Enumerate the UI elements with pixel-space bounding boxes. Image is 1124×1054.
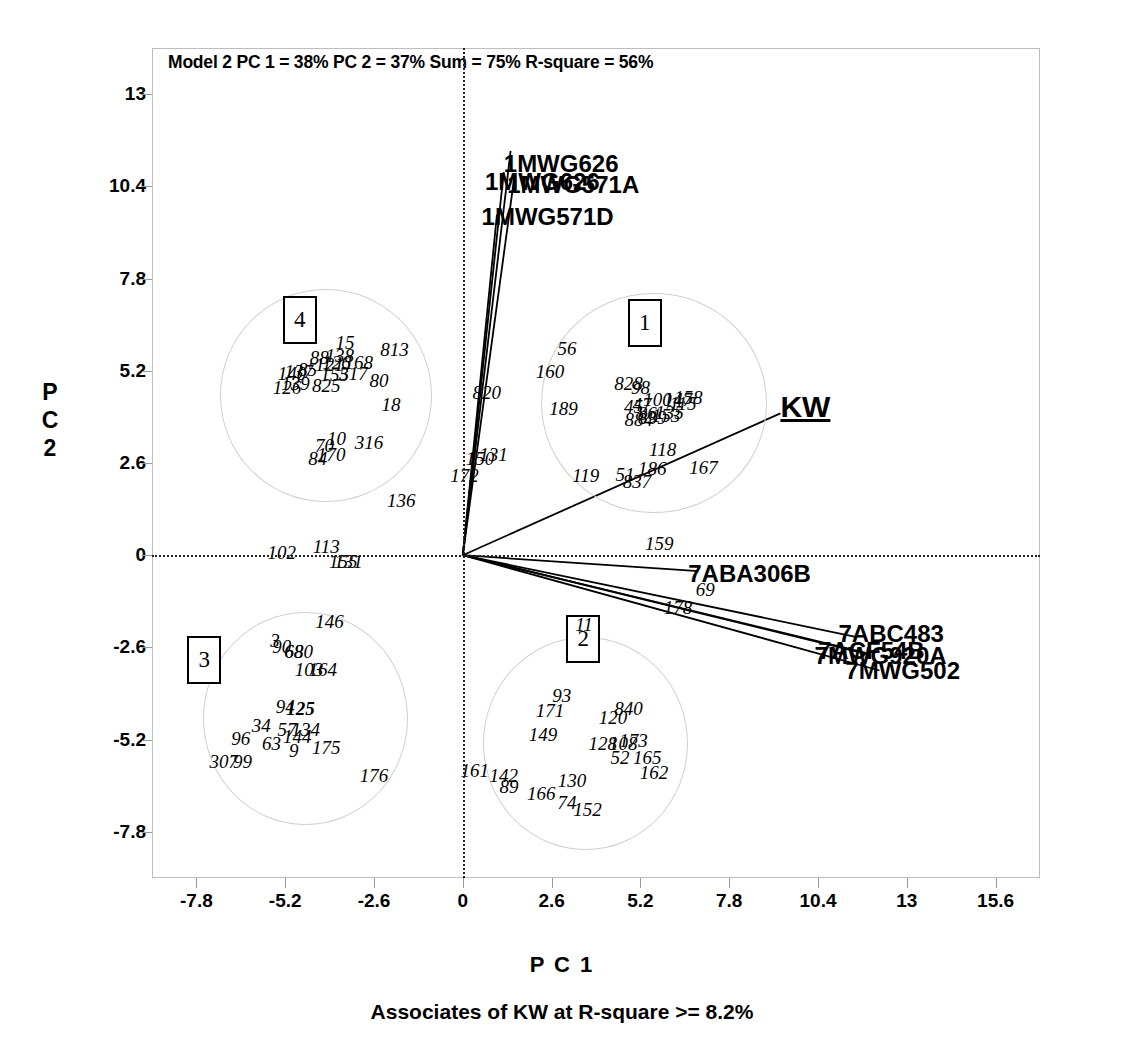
- y-axis-tick-mark: [142, 463, 152, 464]
- point-label: 131: [479, 445, 508, 464]
- point-label: 3: [270, 631, 280, 650]
- point-label: 130: [558, 771, 587, 790]
- point-label: 175: [312, 737, 341, 756]
- y-axis-tick-mark: [142, 279, 152, 280]
- point-label: 164: [309, 659, 338, 678]
- point-label: 118: [649, 439, 676, 458]
- x-axis-tick-mark: [640, 878, 641, 888]
- point-label: 125: [286, 698, 315, 717]
- x-axis-tick-label: 5.2: [627, 890, 653, 912]
- point-label: 167: [689, 457, 718, 476]
- x-axis-tick-mark: [729, 878, 730, 888]
- y-axis-tick-mark: [142, 186, 152, 187]
- y-axis-tick-label: 13: [0, 83, 146, 105]
- x-axis-tick-mark: [552, 878, 553, 888]
- point-label: 102: [268, 542, 297, 561]
- point-label: 74: [557, 792, 576, 811]
- point-label: 146: [315, 611, 344, 630]
- x-axis-tick-mark: [374, 878, 375, 888]
- y-axis-title-char: C: [30, 406, 70, 434]
- cluster-label-box-3: 3: [187, 636, 221, 684]
- point-label: 89: [499, 776, 518, 795]
- y-axis-tick-label: -7.8: [0, 821, 146, 843]
- x-axis-tick-label: 0: [458, 890, 469, 912]
- point-label: 189: [549, 399, 578, 418]
- zero-line-vertical: [463, 48, 465, 878]
- y-axis-tick-label: 7.8: [0, 268, 146, 290]
- vector-label-7MWG502: 7MWG502: [845, 659, 960, 683]
- x-axis-tick-mark: [285, 878, 286, 888]
- x-axis-tick-mark: [196, 878, 197, 888]
- point-label: 131: [334, 551, 363, 570]
- x-axis-tick-label: -5.2: [269, 890, 302, 912]
- y-axis-tick-mark: [142, 832, 152, 833]
- x-axis-tick-mark: [818, 878, 819, 888]
- y-axis-tick-mark: [142, 740, 152, 741]
- y-axis-title: PC2: [30, 378, 70, 462]
- vector-label-1MWG626b: 1MWG626: [485, 170, 600, 194]
- x-axis-tick-label: 2.6: [538, 890, 564, 912]
- y-axis-tick-mark: [142, 555, 152, 556]
- x-axis-tick-label: -2.6: [358, 890, 391, 912]
- y-axis-tick-mark: [142, 94, 152, 95]
- vector-label-1MWG571D: 1MWG571D: [482, 205, 614, 229]
- y-axis-title-char: 2: [30, 434, 70, 462]
- point-label: 171: [536, 700, 565, 719]
- x-axis-tick-label: 10.4: [800, 890, 837, 912]
- y-axis-tick-label: 2.6: [0, 452, 146, 474]
- point-label: 9: [289, 741, 299, 760]
- cluster-label-box-1: 1: [628, 299, 662, 347]
- point-label: 176: [360, 766, 389, 785]
- point-label: 80: [370, 370, 389, 389]
- point-label: 52: [610, 748, 629, 767]
- x-axis-tick-mark: [463, 878, 464, 888]
- point-label: 166: [527, 783, 556, 802]
- point-label: 136: [387, 491, 416, 510]
- vector-label-KW: KW: [780, 392, 830, 422]
- y-axis-tick-mark: [142, 371, 152, 372]
- point-label: 139: [281, 374, 310, 393]
- point-label: 820: [472, 383, 501, 402]
- x-axis-tick-label: 7.8: [716, 890, 742, 912]
- point-label: 99: [233, 751, 252, 770]
- point-label: 84: [308, 448, 327, 467]
- point-label: 813: [380, 340, 409, 359]
- point-label: 162: [640, 762, 669, 781]
- y-axis-tick-label: 0: [0, 544, 146, 566]
- y-axis-tick-label: 10.4: [0, 175, 146, 197]
- point-label: 316: [355, 432, 384, 451]
- point-label: 120: [599, 707, 628, 726]
- point-label: 63: [262, 734, 281, 753]
- y-axis-tick-label: 5.2: [0, 360, 146, 382]
- point-label: 837: [623, 471, 652, 490]
- y-axis-title-char: P: [30, 378, 70, 406]
- point-label: 96: [231, 728, 250, 747]
- point-label: 119: [572, 466, 599, 485]
- y-axis-tick-label: -2.6: [0, 636, 146, 658]
- point-label: 56: [557, 338, 576, 357]
- point-label: 160: [536, 361, 565, 380]
- vector-label-7ABA306B: 7ABA306B: [688, 562, 811, 586]
- point-label: 178: [664, 597, 693, 616]
- x-axis-tick-mark: [907, 878, 908, 888]
- point-label: 153: [652, 406, 681, 425]
- y-axis-tick-mark: [142, 647, 152, 648]
- zero-line-horizontal: [152, 555, 1040, 557]
- point-label: 18: [382, 395, 401, 414]
- chart-caption: Associates of KW at R-square >= 8.2%: [0, 1000, 1124, 1024]
- x-axis-title: P C 1: [0, 952, 1124, 978]
- point-label: 149: [529, 725, 558, 744]
- point-label: 159: [645, 533, 674, 552]
- x-axis-tick-label: 15.6: [977, 890, 1014, 912]
- x-axis-tick-label: -7.8: [180, 890, 213, 912]
- point-label: 11: [575, 615, 593, 634]
- point-label: 152: [573, 799, 602, 818]
- x-axis-tick-label: 13: [896, 890, 917, 912]
- point-label: 825: [312, 375, 341, 394]
- cluster-label-box-4: 4: [283, 296, 317, 344]
- x-axis-tick-mark: [996, 878, 997, 888]
- y-axis-tick-label: -5.2: [0, 729, 146, 751]
